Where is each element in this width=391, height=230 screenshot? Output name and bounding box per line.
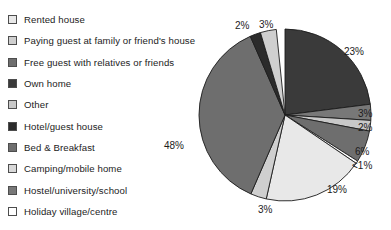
pie-chart-area: 2%3%23%3%2%6%<1%19%3%48% xyxy=(196,0,391,230)
legend-swatch-icon xyxy=(8,100,17,109)
pie-percentage-label: 23% xyxy=(344,46,364,57)
pie-slice[interactable] xyxy=(285,29,370,115)
legend-swatch-icon xyxy=(8,164,17,173)
legend-swatch-icon xyxy=(8,58,17,67)
legend-item[interactable]: Holiday village/centre xyxy=(8,201,208,222)
pie-percentage-label: 3% xyxy=(259,19,273,30)
legend-item-label: Hostel/university/school xyxy=(24,185,127,196)
pie-percentage-label: 19% xyxy=(327,184,347,195)
legend-swatch-icon xyxy=(8,186,17,195)
pie-percentage-label: 2% xyxy=(235,20,249,31)
legend-swatch-icon xyxy=(8,15,17,24)
pie-percentage-label: 2% xyxy=(358,122,372,133)
legend-item-label: Own home xyxy=(24,78,71,89)
legend-item-label: Camping/mobile home xyxy=(24,163,122,174)
pie-chart-figure: Rented housePaying guest at family or fr… xyxy=(0,0,391,230)
legend-item-label: Paying guest at family or friend's house xyxy=(24,35,195,46)
chart-legend: Rented housePaying guest at family or fr… xyxy=(8,9,208,222)
legend-swatch-icon xyxy=(8,122,17,131)
legend-item[interactable]: Own home xyxy=(8,73,208,94)
legend-item[interactable]: Hotel/guest house xyxy=(8,115,208,136)
pie-percentage-label: 48% xyxy=(164,140,184,151)
pie-percentage-label: <1% xyxy=(352,160,372,171)
legend-item[interactable]: Paying guest at family or friend's house xyxy=(8,30,208,51)
legend-item[interactable]: Hostel/university/school xyxy=(8,179,208,200)
legend-item-label: Hotel/guest house xyxy=(24,121,103,132)
legend-item[interactable]: Other xyxy=(8,94,208,115)
legend-item-label: Holiday village/centre xyxy=(24,206,117,217)
pie-percentage-label: 6% xyxy=(355,146,369,157)
pie-percentage-label: 3% xyxy=(258,204,272,215)
legend-swatch-icon xyxy=(8,143,17,152)
legend-swatch-icon xyxy=(8,79,17,88)
legend-item-label: Free guest with relatives or friends xyxy=(24,57,174,68)
legend-swatch-icon xyxy=(8,207,17,216)
legend-item-label: Rented house xyxy=(24,14,85,25)
legend-item-label: Bed & Breakfast xyxy=(24,142,95,153)
legend-swatch-icon xyxy=(8,36,17,45)
legend-item[interactable]: Free guest with relatives or friends xyxy=(8,52,208,73)
legend-item[interactable]: Rented house xyxy=(8,9,208,30)
legend-item-label: Other xyxy=(24,99,49,110)
legend-item[interactable]: Camping/mobile home xyxy=(8,158,208,179)
pie-percentage-label: 3% xyxy=(358,108,372,119)
